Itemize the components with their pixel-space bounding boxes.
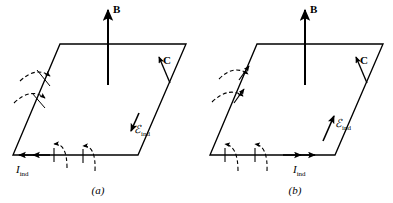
- figure-container: B C ℰind Iind (a): [0, 0, 393, 203]
- induced-emf-label-b: ℰind: [335, 117, 351, 132]
- flux-curve-b-bottom-2: [255, 144, 267, 171]
- panel-a-caption: (a): [0, 184, 196, 196]
- induced-emf-arrow-b: [323, 116, 334, 141]
- contour-label-b: C: [360, 54, 368, 66]
- magnetic-field-label-b: B: [310, 3, 318, 15]
- induced-current-label-a: Iind: [15, 163, 29, 178]
- panel-b-drawing: B C ℰind Iind: [197, 0, 393, 203]
- induced-current-label-b: Iind: [292, 163, 306, 178]
- contour-label-a: C: [163, 54, 171, 66]
- panel-b: B C ℰind Iind (b): [197, 0, 393, 203]
- flux-curve-a-left-2: [14, 94, 45, 103]
- panel-a-drawing: B C ℰind Iind: [0, 0, 196, 203]
- magnetic-field-label-a: B: [113, 3, 121, 15]
- induced-emf-label-a: ℰind: [134, 123, 150, 138]
- flux-curve-a-bottom-2: [83, 146, 95, 171]
- flux-arrow-b-left-1: [239, 66, 249, 80]
- panel-b-caption: (b): [197, 184, 393, 196]
- panel-a: B C ℰind Iind (a): [0, 0, 196, 203]
- flux-curve-a-bottom-1: [54, 144, 67, 168]
- flux-curve-b-bottom-1: [225, 144, 238, 171]
